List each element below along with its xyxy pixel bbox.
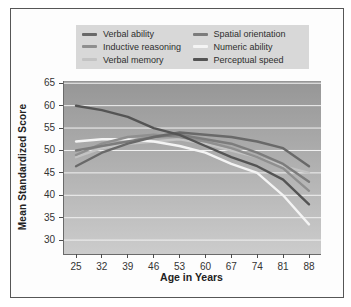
legend: Verbal abilityInductive reasoningVerbal … <box>76 25 309 69</box>
x-axis-tick <box>309 254 310 258</box>
legend-item: Numeric ability <box>193 42 304 52</box>
x-axis-tick <box>76 254 77 258</box>
y-axis-tick <box>59 172 63 173</box>
legend-item-label: Numeric ability <box>214 42 273 52</box>
x-axis-tick <box>283 254 284 258</box>
legend-item-label: Inductive reasoning <box>103 42 181 52</box>
x-axis-tick <box>205 254 206 258</box>
y-axis-tick-label: 65 <box>29 77 55 88</box>
x-axis-tick <box>153 254 154 258</box>
legend-item: Verbal ability <box>82 29 193 39</box>
y-axis-tick <box>59 195 63 196</box>
y-axis-tick <box>59 217 63 218</box>
legend-item: Inductive reasoning <box>82 42 193 52</box>
line-chart-canvas <box>64 81 321 254</box>
x-axis-title: Age in Years <box>63 271 320 283</box>
y-axis-tick-label: 50 <box>29 144 55 155</box>
y-axis-tick <box>59 83 63 84</box>
y-axis-tick <box>59 240 63 241</box>
legend-item: Perceptual speed <box>193 55 304 65</box>
legend-line-swatch <box>82 33 97 36</box>
figure-frame: Verbal abilityInductive reasoningVerbal … <box>10 8 344 298</box>
legend-line-swatch <box>82 45 97 48</box>
x-axis-tick <box>231 254 232 258</box>
plot-area: 253239465360677481883035404550556065 <box>63 81 321 255</box>
legend-item-label: Perceptual speed <box>214 55 284 65</box>
legend-item: Verbal memory <box>82 55 193 65</box>
series-line-perceptual-speed <box>76 106 309 205</box>
x-axis-tick <box>101 254 102 258</box>
y-axis-tick-label: 60 <box>29 100 55 111</box>
legend-line-swatch <box>82 58 97 61</box>
x-axis-tick <box>257 254 258 258</box>
y-axis-tick <box>59 150 63 151</box>
y-axis-tick-label: 55 <box>29 122 55 133</box>
series-line-numeric-ability <box>76 139 309 224</box>
x-axis-tick <box>179 254 180 258</box>
legend-item-label: Verbal memory <box>103 55 164 65</box>
y-axis-tick-label: 45 <box>29 167 55 178</box>
y-axis-title: Mean Standardized Score <box>17 67 28 267</box>
legend-item-label: Spatial orientation <box>214 29 286 39</box>
y-axis-tick <box>59 105 63 106</box>
legend-line-swatch <box>193 58 208 61</box>
legend-item: Spatial orientation <box>193 29 304 39</box>
legend-item-label: Verbal ability <box>103 29 154 39</box>
y-axis-tick-label: 35 <box>29 212 55 223</box>
y-axis-tick-label: 40 <box>29 189 55 200</box>
x-axis-tick <box>127 254 128 258</box>
legend-line-swatch <box>193 45 208 48</box>
scanned-chart-figure: Verbal abilityInductive reasoningVerbal … <box>0 0 351 307</box>
legend-line-swatch <box>193 33 208 36</box>
y-axis-tick <box>59 128 63 129</box>
y-axis-tick-label: 30 <box>29 234 55 245</box>
